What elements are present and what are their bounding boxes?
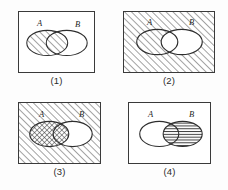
venn-graphic-2 — [124, 12, 214, 72]
venn-graphic-1 — [19, 12, 94, 72]
set-b-label-3: B — [79, 109, 84, 119]
panel-caption-4: (4) — [128, 166, 211, 177]
venn-panel-1: A B (1) — [18, 11, 95, 89]
venn-panel-2: A B (2) — [123, 11, 215, 89]
set-a-label-2: A — [147, 17, 152, 27]
set-b-fill-4 — [129, 103, 210, 163]
venn-graphic-4 — [129, 103, 210, 163]
venn-panel-4: A B (4) — [128, 102, 211, 180]
panel-caption-3: (3) — [18, 166, 101, 177]
set-b-label-2: B — [189, 17, 194, 27]
set-a-label-4: A — [148, 109, 153, 119]
universe-rect-4 — [128, 102, 211, 164]
panel-caption-2: (2) — [123, 75, 215, 86]
set-b-label-1: B — [75, 19, 80, 29]
venn-diagram-figure: A B (1) A B (2) — [0, 0, 228, 190]
venn-graphic-3 — [19, 103, 100, 163]
set-b-label-4: B — [189, 109, 194, 119]
set-a-fill-1 — [19, 12, 94, 72]
universe-rect-1 — [18, 11, 95, 73]
universe-rect-3 — [18, 102, 101, 164]
venn-panel-3: A B (3) — [18, 102, 101, 180]
set-a-label-3: A — [39, 109, 44, 119]
panel-caption-1: (1) — [18, 75, 95, 86]
set-a-label-1: A — [37, 18, 42, 28]
universe-rect-2 — [123, 11, 215, 73]
